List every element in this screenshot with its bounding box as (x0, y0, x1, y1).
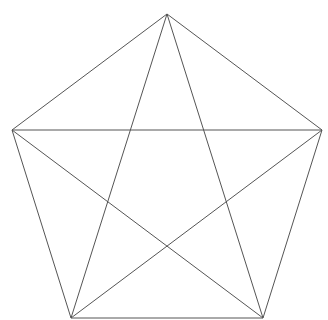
edge-bottom-right-left (12, 130, 263, 318)
edges-group (12, 14, 322, 318)
edge-top-bottom-left (71, 14, 167, 318)
edge-top-right (167, 14, 322, 130)
edge-right-bottom-left (71, 130, 322, 318)
pentagon-diagram (0, 0, 328, 320)
edge-left-top (12, 14, 167, 130)
edge-right-bottom-right (263, 130, 322, 318)
edge-bottom-left-left (12, 130, 71, 318)
edge-top-bottom-right (167, 14, 263, 318)
